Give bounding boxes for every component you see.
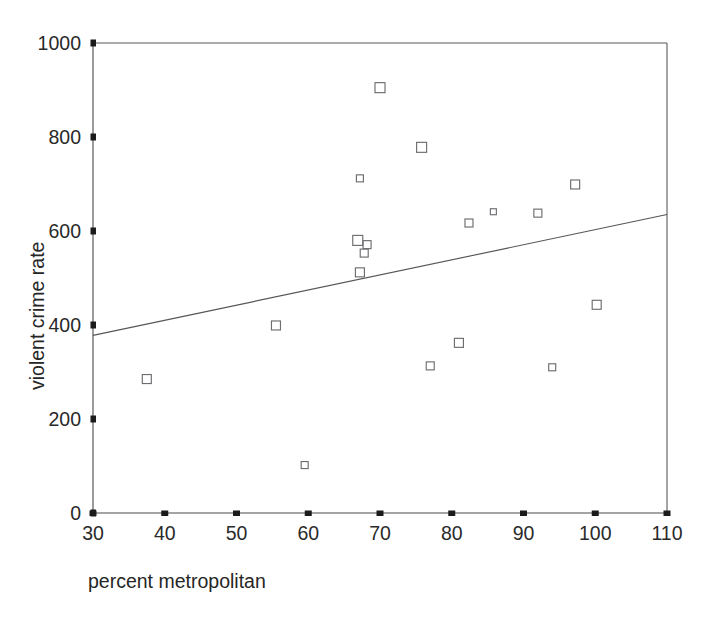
y-tick-label: 200	[48, 408, 81, 430]
data-point-marker	[375, 83, 385, 93]
y-tick-label: 400	[48, 314, 81, 336]
x-tick-mark	[161, 511, 168, 517]
data-point-marker	[355, 268, 364, 277]
x-tick-mark	[305, 511, 312, 517]
data-point-marker	[142, 375, 151, 384]
y-tick-mark	[91, 416, 97, 423]
y-tick-mark	[91, 40, 97, 47]
y-tick-label: 1000	[38, 32, 82, 54]
data-point-marker	[465, 219, 473, 227]
data-point-marker	[363, 241, 371, 249]
data-point-marker	[271, 321, 280, 330]
y-tick-label: 0	[70, 502, 81, 524]
x-axis-title: percent metropolitan	[88, 570, 266, 592]
data-point-marker	[534, 209, 542, 217]
x-tick-mark	[520, 511, 527, 517]
data-point-marker	[490, 209, 496, 215]
y-tick-mark	[91, 228, 97, 235]
data-point-marker	[426, 362, 434, 370]
x-tick-label: 60	[297, 522, 319, 544]
x-tick-label: 90	[513, 522, 535, 544]
data-point-marker	[353, 235, 363, 245]
x-tick-label: 100	[579, 522, 612, 544]
x-tick-mark	[233, 511, 240, 517]
data-point-marker	[417, 142, 427, 152]
data-point-marker	[592, 300, 601, 309]
plot-frame	[93, 43, 667, 513]
data-point-marker	[549, 364, 556, 371]
x-tick-label: 110	[651, 522, 682, 544]
y-tick-label: 600	[48, 220, 81, 242]
x-tick-mark	[592, 511, 599, 517]
y-axis-title: violent crime rate	[26, 242, 48, 390]
data-point-marker	[360, 249, 368, 257]
x-tick-mark	[664, 511, 671, 517]
data-points	[142, 83, 601, 469]
y-tick-mark	[91, 322, 97, 329]
data-point-marker	[301, 462, 308, 469]
x-tick-label: 70	[369, 522, 391, 544]
data-point-marker	[571, 180, 580, 189]
x-tick-mark	[448, 511, 455, 517]
scatter-plot-figure: 30405060708090100110 02004006008001000 p…	[0, 0, 716, 621]
y-tick-label: 800	[48, 126, 81, 148]
y-tick-mark	[91, 134, 97, 141]
x-tick-label: 40	[154, 522, 176, 544]
y-tick-mark	[91, 510, 97, 517]
regression-line	[93, 215, 667, 336]
x-tick-label: 50	[226, 522, 248, 544]
fit-line	[93, 215, 667, 336]
x-tick-label: 80	[441, 522, 463, 544]
data-point-marker	[356, 175, 363, 182]
x-tick-label: 30	[82, 522, 104, 544]
plot-canvas: 30405060708090100110 02004006008001000 p…	[0, 0, 716, 621]
data-point-marker	[454, 338, 463, 347]
x-tick-mark	[377, 511, 384, 517]
x-axis-ticks: 30405060708090100110	[82, 511, 683, 545]
